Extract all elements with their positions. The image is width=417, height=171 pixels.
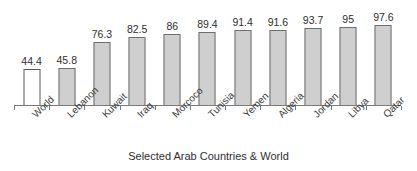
bar-group: 45.8 xyxy=(49,6,84,106)
bar-chart: 44.445.876.382.58689.491.491.693.79597.6… xyxy=(0,0,417,171)
bar-value-label: 82.5 xyxy=(127,24,147,35)
bar-value-label: 95 xyxy=(342,14,354,25)
bar-value-label: 97.6 xyxy=(373,12,393,23)
x-axis-title: Selected Arab Countries & World xyxy=(0,150,417,163)
axis-tick xyxy=(401,106,402,110)
bar xyxy=(164,34,181,106)
bar-group: 44.4 xyxy=(14,6,49,106)
bar-group: 97.6 xyxy=(366,6,401,106)
plot-area: 44.445.876.382.58689.491.491.693.79597.6 xyxy=(14,6,401,106)
axis-tick xyxy=(225,106,226,110)
bar-group: 91.6 xyxy=(260,6,295,106)
axis-tick xyxy=(190,106,191,110)
bar xyxy=(129,37,146,106)
bar xyxy=(269,30,286,106)
bar-group: 95 xyxy=(331,6,366,106)
bar-value-label: 93.7 xyxy=(303,15,323,26)
axis-tick xyxy=(331,106,332,110)
bar xyxy=(340,27,357,106)
axis-tick xyxy=(295,106,296,110)
bar xyxy=(234,30,251,106)
axis-tick xyxy=(49,106,50,110)
axis-tick xyxy=(84,106,85,110)
axis-tick xyxy=(120,106,121,110)
bar xyxy=(375,25,392,106)
axis-tick xyxy=(260,106,261,110)
x-axis-category-labels: WorldLebanonKuwaitIraqMorcocoTunisiaYeme… xyxy=(14,112,401,148)
bar-value-label: 89.4 xyxy=(197,19,217,30)
axis-tick xyxy=(155,106,156,110)
bar xyxy=(23,69,40,106)
bar-value-label: 91.6 xyxy=(268,17,288,28)
bar-group: 93.7 xyxy=(295,6,330,106)
bar-group: 82.5 xyxy=(120,6,155,106)
bar-value-label: 44.4 xyxy=(21,56,41,67)
axis-tick xyxy=(366,106,367,110)
bar-group: 86 xyxy=(155,6,190,106)
axis-tick xyxy=(14,106,15,110)
bar-value-label: 91.4 xyxy=(232,17,252,28)
bar-value-label: 76.3 xyxy=(92,29,112,40)
bar-value-label: 86 xyxy=(166,21,178,32)
bar-value-label: 45.8 xyxy=(57,55,77,66)
bar xyxy=(305,28,322,106)
bar xyxy=(58,68,75,106)
